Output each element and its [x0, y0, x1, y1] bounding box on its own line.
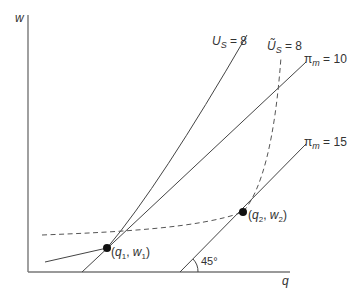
us-curve-label: US = 8 [212, 34, 247, 50]
angle-arc [193, 259, 198, 272]
angle-label: 45° [201, 255, 218, 267]
us-tilde-curve [42, 57, 281, 235]
point-q2-w2-label: (q2, w2) [248, 208, 287, 224]
y-axis-label: w [15, 11, 25, 25]
pi15-line-label: πm = 15 [304, 135, 347, 151]
pi10-line-label: πm = 10 [304, 52, 347, 68]
point-q1-w1-label: (q1, w1) [111, 245, 150, 261]
diagram-canvas: w q 45° (q1, w1) (q2, w2) US = 8 ŨS = 8 … [0, 0, 359, 295]
us-tilde-curve-label: ŨS = 8 [267, 38, 302, 55]
us-curve [45, 35, 247, 262]
point-q2-w2 [239, 208, 247, 216]
pi10-line [82, 62, 306, 272]
point-q1-w1 [103, 244, 111, 252]
x-axis-label: q [282, 274, 289, 288]
